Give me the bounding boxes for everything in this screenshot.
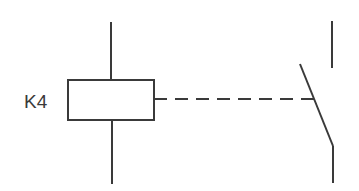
switch-blade [300,64,333,146]
relay-diagram [0,0,359,191]
relay-coil-box [68,80,154,120]
